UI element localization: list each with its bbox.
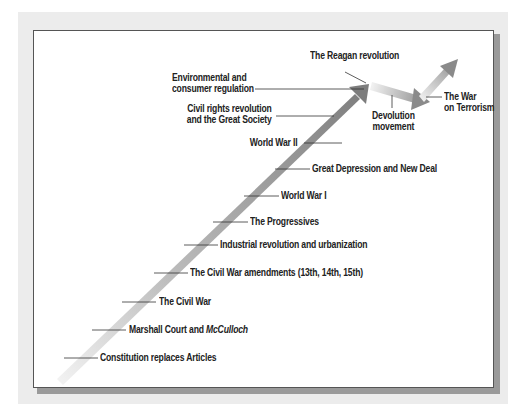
label-world-war-1: World War I [281,190,326,201]
label-mcculloch: McCulloch [206,324,248,335]
label-civil-rights: Civil rights revolutionand the Great Soc… [187,103,272,125]
label-industrial-revolution: Industrial revolution and urbanization [220,239,367,250]
label-great-depression: Great Depression and New Deal [312,163,437,174]
main-arrow [57,84,369,385]
label-terrorism-line1: The War [444,91,494,102]
label-world-war-2: World War II [249,137,297,148]
label-marshall: Marshall Court and McCulloch [129,324,248,335]
label-constitution: Constitution replaces Articles [100,352,216,363]
label-civil-war-amendments: The Civil War amendments (13th, 14th, 15… [190,267,363,278]
label-environmental: Environmental andconsumer regulation [172,72,254,94]
label-civil-rights-line1: Civil rights revolution [187,103,272,114]
label-marshall-text: Marshall Court and [129,324,206,335]
label-devolution: Devolutionmovement [372,110,415,132]
label-terrorism-line2: on Terrorism [444,102,494,113]
label-reagan-revolution: The Reagan revolution [310,50,399,61]
label-environmental-line1: Environmental and [172,72,254,83]
label-civil-rights-line2: and the Great Society [187,114,272,125]
label-devolution-line2: movement [372,121,415,132]
label-civil-war: The Civil War [159,296,211,307]
label-war-on-terrorism: The Waron Terrorism [444,91,494,113]
label-progressives: The Progressives [250,216,319,227]
label-devolution-line1: Devolution [372,110,415,121]
label-environmental-line2: consumer regulation [172,83,254,94]
timeline-arrows [0,0,525,415]
